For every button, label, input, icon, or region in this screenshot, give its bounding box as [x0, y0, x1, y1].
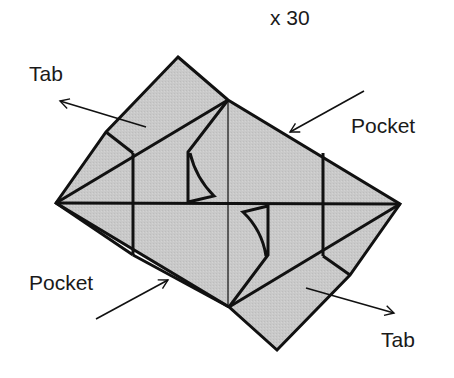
tab-top-label: Tab — [29, 62, 63, 86]
pocket-top-label: Pocket — [351, 114, 415, 138]
multiplier-label: x 30 — [270, 6, 310, 30]
arrow-pocket-bottom — [96, 280, 168, 319]
pocket-bottom-label: Pocket — [29, 271, 93, 295]
origami-unit-diagram — [0, 0, 454, 378]
tab-bottom-label: Tab — [381, 328, 415, 352]
